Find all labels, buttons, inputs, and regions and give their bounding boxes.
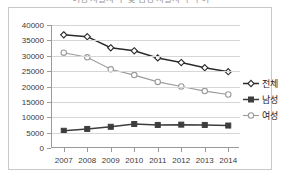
data-point-diamond [178, 59, 184, 65]
y-axis-tick [47, 148, 51, 149]
legend-label: 남성 [262, 93, 278, 106]
x-axis-label: 2013 [196, 156, 214, 165]
y-axis-tick [47, 117, 51, 118]
data-point-open-circle [155, 79, 160, 84]
data-point-square [202, 122, 207, 127]
chart-legend: 전체남성여성 [243, 78, 278, 121]
legend-item-남성[interactable]: 남성 [243, 94, 278, 105]
chart-title-cropped: 여성 자살자 수 및 남성 자살자 수 추이 [0, 0, 281, 5]
legend-marker-square-icon [243, 95, 259, 104]
y-axis-tick [47, 25, 51, 26]
data-point-diamond [248, 80, 254, 86]
data-point-diamond [61, 32, 67, 38]
data-point-open-circle [226, 92, 231, 97]
gridline [52, 117, 240, 118]
data-point-square [179, 122, 184, 127]
data-point-diamond [131, 48, 137, 54]
data-point-square [249, 97, 254, 102]
gridline [52, 102, 240, 103]
gridline [52, 133, 240, 134]
chart-screenshot: 여성 자살자 수 및 남성 자살자 수 추이 05000100001500020… [0, 0, 281, 177]
data-point-open-circle [61, 50, 66, 55]
data-point-diamond [84, 34, 90, 40]
x-axis-tick [111, 148, 112, 152]
x-axis-tick [228, 148, 229, 152]
series-전체 [61, 32, 232, 75]
legend-item-여성[interactable]: 여성 [243, 110, 278, 121]
y-axis-label: 25000 [22, 67, 44, 76]
x-axis-label: 2008 [78, 156, 96, 165]
chart-title-text: 여성 자살자 수 및 남성 자살자 수 추이 [0, 0, 281, 4]
data-point-diamond [202, 65, 208, 71]
data-point-open-circle [248, 113, 253, 118]
data-point-square [108, 124, 113, 129]
x-axis-label: 2011 [149, 156, 166, 165]
y-axis-label: 0 [40, 144, 44, 153]
y-axis-tick [47, 56, 51, 57]
y-axis-tick [47, 87, 51, 88]
gridline [52, 71, 240, 72]
legend-marker-open-circle-icon [243, 111, 259, 120]
x-axis-tick [205, 148, 206, 152]
data-point-square [85, 126, 90, 131]
y-axis-label: 10000 [22, 113, 44, 122]
plot-area: 0500010000150002000025000300003500040000… [51, 25, 239, 148]
x-axis-tick [64, 148, 65, 152]
y-axis-tick [47, 133, 51, 134]
legend-marker-diamond-icon [243, 79, 259, 88]
x-axis-label: 2012 [172, 156, 190, 165]
legend-item-전체[interactable]: 전체 [243, 78, 278, 89]
x-axis-label: 2010 [125, 156, 143, 165]
x-axis-label: 2014 [219, 156, 237, 165]
gridline [52, 40, 240, 41]
chart-frame: 0500010000150002000025000300003500040000… [8, 7, 272, 170]
data-point-diamond [108, 45, 114, 51]
x-axis-tick [158, 148, 159, 152]
data-point-open-circle [202, 88, 207, 93]
legend-label: 전체 [262, 77, 278, 90]
series-여성 [61, 50, 231, 97]
y-axis-label: 35000 [22, 36, 44, 45]
x-axis-tick [87, 148, 88, 152]
legend-label: 여성 [262, 109, 278, 122]
series-남성 [61, 122, 231, 134]
gridline [52, 56, 240, 57]
x-axis-label: 2009 [102, 156, 120, 165]
data-point-square [155, 122, 160, 127]
data-point-square [132, 122, 137, 127]
y-axis-tick [47, 71, 51, 72]
x-axis-label: 2007 [55, 156, 73, 165]
y-axis-label: 30000 [22, 51, 44, 60]
y-axis-label: 20000 [22, 82, 44, 91]
y-axis-tick [47, 102, 51, 103]
y-axis-label: 40000 [22, 21, 44, 30]
gridline [52, 25, 240, 26]
gridline [52, 87, 240, 88]
x-axis-tick [134, 148, 135, 152]
data-point-open-circle [132, 72, 137, 77]
x-axis-tick [181, 148, 182, 152]
y-axis-tick [47, 40, 51, 41]
y-axis-label: 5000 [26, 128, 44, 137]
y-axis-label: 15000 [22, 97, 44, 106]
data-point-square [226, 123, 231, 128]
